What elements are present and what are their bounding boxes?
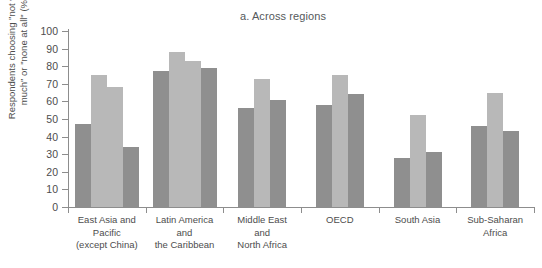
y-axis-tick-label: 60 (46, 95, 58, 107)
bar (270, 100, 286, 207)
x-axis-tick (301, 207, 302, 213)
y-axis-title: Respondents choosing "not very much" or … (3, 0, 33, 139)
bar-group (394, 31, 442, 207)
chart-title: a. Across regions (0, 10, 542, 22)
bar (332, 75, 348, 207)
x-axis-tick (68, 207, 69, 213)
x-axis-category-label: Latin America and the Caribbean (146, 214, 224, 252)
bar (471, 126, 487, 207)
y-axis-tick-label: 80 (46, 60, 58, 72)
y-axis-tick-label: 40 (46, 131, 58, 143)
bar-group (471, 31, 519, 207)
bar (91, 75, 107, 207)
bar (169, 52, 185, 207)
bar (153, 71, 169, 207)
x-axis-category-label: East Asia and Pacific (except China) (68, 214, 146, 252)
bar (487, 93, 503, 207)
plot-area (68, 31, 534, 207)
bar (238, 108, 254, 207)
bar (394, 158, 410, 207)
y-axis-tick-label: 0 (52, 201, 58, 213)
y-axis-tick-label: 90 (46, 43, 58, 55)
bar-chart: a. Across regions Respondents choosing "… (0, 0, 542, 268)
y-axis-tick-label: 100 (40, 25, 58, 37)
x-axis-category-label: South Asia (379, 214, 457, 227)
bar (107, 87, 123, 207)
bar (185, 61, 201, 207)
chart-title-text: a. Across regions (240, 10, 326, 22)
y-axis-tick-label: 10 (46, 183, 58, 195)
bar-group (75, 31, 139, 207)
bar (410, 115, 426, 207)
bar (123, 147, 139, 207)
x-axis-tick (456, 207, 457, 213)
bar-group (153, 31, 217, 207)
y-axis-tick-label: 70 (46, 78, 58, 90)
bar (201, 68, 217, 207)
bar-group (316, 31, 364, 207)
bar (348, 94, 364, 207)
x-axis-category-label: Middle East and North Africa (223, 214, 301, 252)
x-axis-tick (534, 207, 535, 213)
x-axis-tick (223, 207, 224, 213)
y-axis-tick-label: 50 (46, 113, 58, 125)
x-axis-tick (146, 207, 147, 213)
x-axis-tick (379, 207, 380, 213)
bar (254, 79, 270, 207)
bar (316, 105, 332, 207)
bar-group (238, 31, 286, 207)
bar (75, 124, 91, 207)
bar (503, 131, 519, 207)
y-axis-tick-label: 20 (46, 166, 58, 178)
y-axis-tick-label: 30 (46, 148, 58, 160)
x-axis-category-label: Sub-Saharan Africa (456, 214, 534, 239)
x-axis-category-label: OECD (301, 214, 379, 227)
bar (426, 152, 442, 207)
